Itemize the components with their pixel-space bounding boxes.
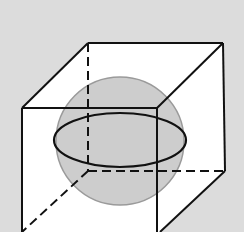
- sphere: [56, 77, 184, 205]
- inscribed-sphere-diagram: [0, 0, 244, 232]
